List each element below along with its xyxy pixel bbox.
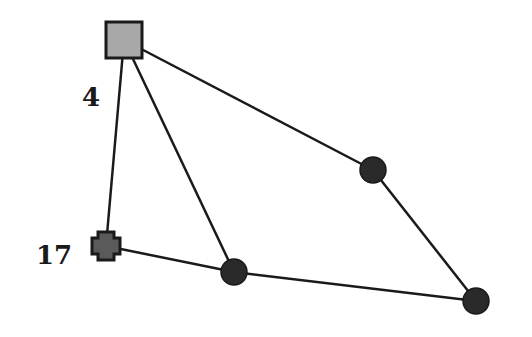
cross-node-label: 17: [36, 240, 72, 270]
edge-circle-bottom-mid-circle-bottom-right: [234, 272, 476, 301]
cross-node[interactable]: [92, 232, 120, 260]
edge-square-cross: [106, 40, 124, 246]
edge-circle-right-circle-bottom-right: [373, 170, 476, 301]
labels: 4 17: [36, 82, 100, 270]
graph-diagram: 4 17: [0, 0, 532, 337]
circle-node-bottom-mid[interactable]: [221, 259, 247, 285]
edges: [106, 40, 476, 301]
circle-node-right[interactable]: [360, 157, 386, 183]
edge-cross-circle-bottom-mid: [106, 246, 234, 272]
square-node-label: 4: [82, 82, 100, 112]
edge-square-circle-right: [124, 40, 373, 170]
nodes: [92, 22, 489, 314]
circle-node-bottom-right[interactable]: [463, 288, 489, 314]
edge-square-circle-bottom-mid: [124, 40, 234, 272]
square-node[interactable]: [106, 22, 142, 58]
